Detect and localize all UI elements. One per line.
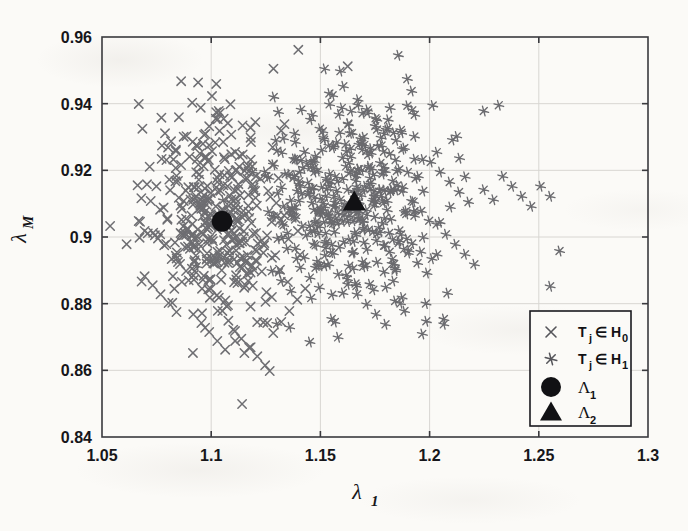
marker-asterisk [381,282,391,292]
marker-x [240,227,248,235]
y-tick-label: 0.92 [61,162,92,179]
marker-x [172,145,180,153]
y-axis-title-symbol: λ [6,233,31,244]
legend-label-main: T [578,351,587,367]
marker-x [106,222,114,230]
marker-x [197,319,205,327]
marker-x [137,194,145,202]
marker-x [235,224,243,232]
marker-x [190,183,198,191]
legend-label-rest: ∈ H [595,324,621,340]
marker-x [219,138,227,146]
marker-x [213,291,221,299]
marker-x [271,251,279,259]
marker-asterisk [300,147,310,157]
marker-x [293,295,301,303]
marker-x [217,275,225,283]
marker-x [172,147,180,155]
marker-x [246,343,254,351]
marker-asterisk [327,290,337,300]
marker-asterisk [339,82,349,92]
marker-asterisk [545,282,555,292]
legend[interactable]: Tj∈ H0Tj∈ H1Λ1Λ2 [530,311,631,426]
marker-asterisk [317,145,327,155]
marker-asterisk [362,300,372,310]
marker-asterisk [335,128,345,138]
marker-asterisk [498,172,508,182]
marker-x [166,186,174,194]
marker-x [213,337,221,345]
marker-x [261,361,269,369]
marker-asterisk [494,100,504,110]
marker-asterisk [422,268,432,278]
marker-x [294,46,302,54]
marker-asterisk [416,247,426,257]
marker-asterisk [455,153,465,163]
marker-x [197,103,205,111]
marker-asterisk [362,245,372,255]
marker-asterisk [279,134,289,144]
marker-asterisk [460,250,470,260]
marker-asterisk [470,260,480,270]
marker-asterisk [545,192,555,202]
marker-x [169,155,177,163]
marker-asterisk [333,333,343,343]
marker-x [198,309,206,317]
y-tick-label: 0.86 [61,362,92,379]
legend-circle-icon [541,377,561,397]
legend-label-subscript: 1 [590,389,596,401]
legend-label-subscript: j [588,332,592,344]
marker-asterisk [407,86,417,96]
marker-x [218,266,226,274]
marker-x [344,62,352,70]
legend-label-subscript: j [588,359,592,371]
marker-asterisk [432,147,442,157]
marker-x [201,153,209,161]
marker-asterisk [402,74,412,84]
y-tick-label: 0.9 [70,229,92,246]
centroid-lambda-1-circle [212,211,233,232]
marker-x [238,121,246,129]
marker-x [156,290,164,298]
marker-asterisk [517,192,527,202]
marker-x [147,197,155,205]
marker-asterisk [507,182,517,192]
marker-x [269,64,277,72]
x-tick-label: 1.15 [305,447,336,464]
marker-asterisk [295,263,305,273]
marker-x [253,318,261,326]
marker-asterisk [489,195,499,205]
marker-asterisk [286,286,296,296]
marker-x [122,240,130,248]
marker-asterisk [290,129,300,139]
y-tick-label: 0.84 [61,429,92,446]
marker-x [189,138,197,146]
x-tick-label: 1.05 [86,447,117,464]
marker-x [192,168,200,176]
marker-asterisk [338,288,348,298]
marker-x [152,182,160,190]
marker-x [157,113,165,121]
marker-x [189,349,197,357]
marker-x [259,249,267,257]
marker-asterisk [427,254,437,264]
marker-asterisk [296,105,306,115]
marker-asterisk [460,172,470,182]
scatter-plot-figure: 1.051.11.151.21.251.30.840.860.880.90.92… [0,0,688,531]
y-axis-title-subscript: M [20,215,36,230]
marker-asterisk [451,240,461,250]
x-tick-label: 1.1 [200,447,222,464]
marker-asterisk [441,230,451,240]
marker-asterisk [526,202,536,212]
legend-label-rest: ∈ H [595,351,621,367]
marker-asterisk [338,153,348,163]
marker-asterisk [443,288,453,298]
marker-x [238,400,246,408]
marker-asterisk [282,244,292,254]
marker-x [172,308,180,316]
marker-asterisk [555,246,565,256]
marker-asterisk [353,95,363,105]
marker-x [251,194,259,202]
marker-x [212,80,220,88]
marker-asterisk [388,276,398,286]
